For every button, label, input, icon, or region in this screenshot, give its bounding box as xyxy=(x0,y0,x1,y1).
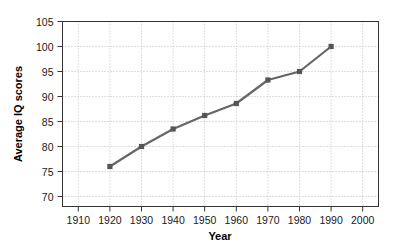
y-tick-label: 100 xyxy=(36,41,54,53)
y-axis-title: Average IQ scores xyxy=(12,66,24,162)
iq-line-chart: 1910192019301940195019601970198019902000… xyxy=(0,0,403,252)
y-tick-label: 85 xyxy=(42,116,54,128)
y-tick-label: 80 xyxy=(42,141,54,153)
x-tick-label: 1930 xyxy=(130,214,154,226)
x-tick-label: 1950 xyxy=(193,214,217,226)
x-tick-label: 1980 xyxy=(288,214,312,226)
x-axis-title: Year xyxy=(208,230,232,242)
y-tick-label: 75 xyxy=(42,166,54,178)
x-tick-label: 1940 xyxy=(161,214,185,226)
data-point-marker xyxy=(202,113,207,118)
x-tick-label: 2000 xyxy=(351,214,375,226)
x-tick-label: 1920 xyxy=(98,214,122,226)
y-tick-label: 90 xyxy=(42,91,54,103)
data-point-marker xyxy=(171,126,176,131)
data-point-marker xyxy=(234,101,239,106)
y-tick-label: 105 xyxy=(36,16,54,28)
data-point-marker xyxy=(139,144,144,149)
x-tick-label: 1910 xyxy=(67,214,91,226)
data-point-marker xyxy=(107,164,112,169)
x-tick-label: 1960 xyxy=(225,214,249,226)
data-point-marker xyxy=(329,44,334,49)
x-tick-label: 1970 xyxy=(256,214,280,226)
x-tick-label: 1990 xyxy=(319,214,343,226)
data-point-marker xyxy=(265,77,270,82)
y-tick-label: 70 xyxy=(42,191,54,203)
chart-canvas: 1910192019301940195019601970198019902000… xyxy=(0,0,403,252)
y-tick-label: 95 xyxy=(42,66,54,78)
data-point-marker xyxy=(297,69,302,74)
